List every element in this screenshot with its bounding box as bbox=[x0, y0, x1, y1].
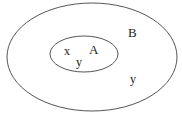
venn-diagram: B A x y y bbox=[0, 0, 182, 117]
element-y-in-b: y bbox=[130, 72, 136, 86]
element-y-in-a: y bbox=[76, 55, 82, 69]
element-x: x bbox=[64, 44, 70, 58]
set-b-label: B bbox=[128, 25, 137, 40]
set-a-ellipse bbox=[50, 36, 118, 72]
set-b-ellipse bbox=[7, 3, 177, 111]
set-a-label: A bbox=[89, 42, 99, 57]
